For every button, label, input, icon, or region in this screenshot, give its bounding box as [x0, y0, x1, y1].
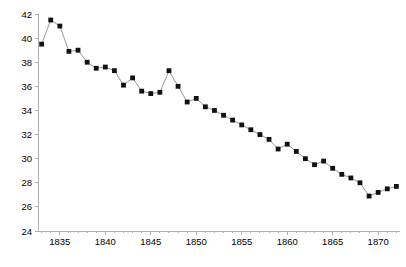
data-point [385, 186, 390, 191]
data-point [103, 65, 108, 70]
data-point [148, 91, 153, 96]
data-point [39, 42, 44, 47]
y-tick-label: 34 [21, 105, 32, 116]
data-point [48, 18, 53, 23]
x-tick-label: 1865 [322, 236, 343, 247]
y-tick-label: 38 [21, 57, 32, 68]
y-tick-label: 28 [21, 177, 32, 188]
data-point [85, 60, 90, 65]
data-point [267, 137, 272, 142]
x-tick-label: 1840 [95, 236, 116, 247]
series-markers [39, 18, 399, 199]
data-point [230, 118, 235, 123]
y-tick-label: 42 [21, 9, 32, 20]
y-tick-label: 32 [21, 129, 32, 140]
data-point [358, 180, 363, 185]
data-point [194, 96, 199, 101]
data-point [258, 132, 263, 137]
data-point [239, 123, 244, 128]
data-point [112, 68, 117, 73]
data-point [94, 66, 99, 71]
data-point [167, 68, 172, 73]
data-point [185, 100, 190, 105]
data-point [348, 176, 353, 181]
x-tick-label: 1860 [277, 236, 298, 247]
data-point [303, 156, 308, 161]
line-chart: 24262830323436384042 1835184018451850185… [0, 0, 406, 267]
data-point [203, 104, 208, 109]
x-tick-label: 1850 [186, 236, 207, 247]
data-point [276, 147, 281, 152]
x-axis: 18351840184518501855186018651870 [38, 231, 400, 247]
y-axis: 24262830323436384042 [21, 9, 38, 237]
chart-canvas: 24262830323436384042 1835184018451850185… [0, 0, 406, 267]
x-axis-tick-labels: 18351840184518501855186018651870 [49, 236, 388, 247]
y-axis-tick-labels: 24262830323436384042 [21, 9, 32, 237]
data-point [221, 113, 226, 118]
data-point [312, 162, 317, 167]
data-point [130, 75, 135, 80]
data-point [321, 159, 326, 164]
data-point [394, 184, 399, 189]
y-tick-label: 40 [21, 33, 32, 44]
data-point [176, 84, 181, 89]
data-point [367, 194, 372, 199]
data-point [76, 48, 81, 53]
data-point [139, 89, 144, 94]
x-tick-label: 1835 [49, 236, 70, 247]
data-point [57, 24, 62, 29]
data-point [285, 142, 290, 147]
data-point [248, 127, 253, 132]
data-point [339, 172, 344, 177]
data-point [212, 108, 217, 113]
series-line [42, 20, 397, 196]
x-tick-label: 1870 [368, 236, 389, 247]
y-tick-label: 30 [21, 153, 32, 164]
data-series [39, 18, 399, 199]
data-point [67, 49, 72, 54]
x-axis-ticks [60, 231, 378, 235]
data-point [121, 83, 126, 88]
data-point [376, 190, 381, 195]
y-tick-label: 26 [21, 201, 32, 212]
y-tick-label: 24 [21, 226, 32, 237]
data-point [294, 149, 299, 154]
x-tick-label: 1855 [231, 236, 252, 247]
x-tick-label: 1845 [140, 236, 161, 247]
data-point [330, 166, 335, 171]
y-tick-label: 36 [21, 81, 32, 92]
data-point [157, 90, 162, 95]
